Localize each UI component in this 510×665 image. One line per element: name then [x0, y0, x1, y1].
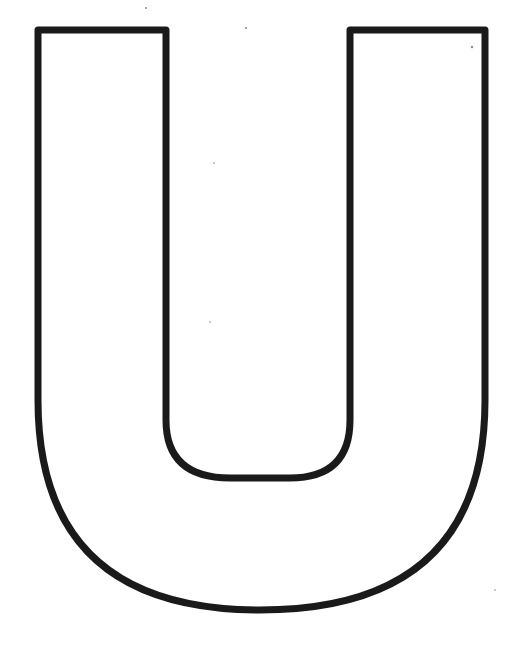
- paper-specks: [145, 7, 496, 591]
- letter-u-outline: [0, 0, 510, 665]
